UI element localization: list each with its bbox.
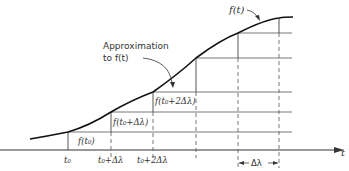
approximation-arrow-icon bbox=[170, 82, 175, 88]
tick-label-t0-plus-dl: t₀+Δλ bbox=[98, 155, 123, 165]
step-label-0: f(t₀) bbox=[77, 136, 95, 146]
step-label-2: f(t₀+2Δλ) bbox=[154, 96, 196, 106]
leader-arrow-icon bbox=[255, 15, 260, 21]
step-label-1: f(t₀+Δλ) bbox=[112, 117, 148, 127]
tick-label-t0-plus-2dl: t₀+2Δλ bbox=[137, 155, 168, 165]
interval-arrow-left-icon bbox=[239, 161, 244, 165]
approximation-label-line1: Approximation bbox=[103, 41, 169, 51]
approximation-leader bbox=[143, 58, 172, 83]
curve-label: f(t) bbox=[228, 4, 245, 15]
interval-label: Δλ bbox=[251, 158, 262, 168]
approximation-label-line2: to f(t) bbox=[103, 53, 129, 63]
interval-arrow-right-icon bbox=[273, 161, 278, 165]
axis-label-t: t bbox=[341, 147, 346, 158]
function-curve bbox=[30, 17, 293, 139]
tick-label-t0: t₀ bbox=[64, 155, 71, 165]
staircase-approximation-diagram: f(t) Approximation to f(t) f(t₀) f(t₀+Δλ… bbox=[0, 0, 349, 171]
